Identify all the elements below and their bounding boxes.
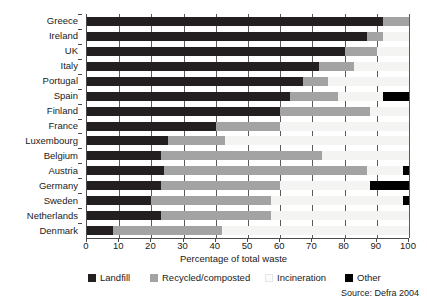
y-axis-tick	[78, 223, 82, 224]
bar-segment-landfill	[87, 151, 161, 160]
bar-row	[87, 226, 409, 235]
bar-segment-recycled	[164, 166, 367, 175]
y-axis-tick	[78, 44, 82, 45]
legend-item-other[interactable]: Other	[345, 272, 381, 283]
bar-segment-recycled	[216, 122, 280, 131]
bar-segment-recycled	[151, 196, 270, 205]
category-label-italy: Italy	[61, 61, 78, 71]
bar-row	[87, 166, 409, 175]
bar-segment-incineration	[338, 92, 383, 101]
bar-segment-incineration	[367, 166, 402, 175]
x-axis-tick-label: 10	[113, 240, 124, 251]
bar-segment-recycled	[367, 32, 383, 41]
legend-item-incineration[interactable]: Incineration	[265, 272, 326, 283]
bar-row	[87, 77, 409, 86]
bar-segment-landfill	[87, 47, 345, 56]
category-label-austria: Austria	[48, 166, 78, 176]
legend-swatch-other-icon	[345, 274, 353, 282]
bar-segment-incineration	[377, 47, 409, 56]
y-axis-tick	[78, 163, 82, 164]
bar-row	[87, 107, 409, 116]
bar-segment-landfill	[87, 122, 216, 131]
category-label-finland: Finland	[47, 106, 78, 116]
x-axis-tick-label: 60	[274, 240, 285, 251]
bar-row	[87, 211, 409, 220]
category-label-luxembourg: Luxembourg	[25, 136, 78, 146]
bar-row	[87, 136, 409, 145]
bar-segment-recycled	[303, 77, 329, 86]
y-axis-tick	[78, 74, 82, 75]
legend-label: Other	[357, 272, 381, 283]
y-axis-tick	[78, 59, 82, 60]
x-axis-tick-label: 30	[177, 240, 188, 251]
bar-segment-other	[403, 196, 409, 205]
bar-row	[87, 181, 409, 190]
bar-segment-incineration	[322, 151, 409, 160]
y-axis-tick	[78, 104, 82, 105]
bar-segment-incineration	[383, 32, 409, 41]
bar-segment-landfill	[87, 211, 161, 220]
bar-segment-incineration	[225, 136, 409, 145]
bar-segment-landfill	[87, 226, 113, 235]
y-axis-tick	[78, 133, 82, 134]
bar-row	[87, 47, 409, 56]
legend-label: Recycled/composted	[162, 272, 250, 283]
y-axis-tick	[78, 119, 82, 120]
category-label-sweden: Sweden	[44, 196, 78, 206]
category-label-spain: Spain	[54, 91, 78, 101]
legend-swatch-incineration-icon	[265, 274, 273, 282]
category-label-netherlands: Netherlands	[27, 211, 78, 221]
bar-segment-other	[383, 92, 409, 101]
bar-segment-other	[370, 181, 409, 190]
bar-segment-recycled	[345, 47, 377, 56]
bar-segment-recycled	[280, 107, 370, 116]
bar-row	[87, 17, 409, 26]
legend-item-landfill[interactable]: Landfill	[88, 272, 130, 283]
bar-segment-incineration	[370, 107, 409, 116]
bar-row	[87, 151, 409, 160]
y-axis-tick	[78, 148, 82, 149]
bar-segment-incineration	[271, 196, 403, 205]
bar-segment-landfill	[87, 166, 164, 175]
legend-label: Incineration	[277, 272, 326, 283]
bar-segment-recycled	[383, 17, 409, 26]
bar-segment-incineration	[328, 77, 409, 86]
legend-label: Landfill	[100, 272, 130, 283]
x-axis-tick-label: 100	[400, 240, 416, 251]
chart-legend: LandfillRecycled/compostedIncinerationOt…	[0, 272, 427, 286]
legend-swatch-recycled-icon	[150, 274, 158, 282]
bar-segment-landfill	[87, 32, 367, 41]
x-axis-tick-label: 50	[242, 240, 253, 251]
y-axis-tick	[78, 178, 82, 179]
y-axis-tick	[78, 14, 82, 15]
bar-segment-recycled	[161, 151, 322, 160]
gridline	[409, 14, 410, 238]
bar-row	[87, 32, 409, 41]
bar-row	[87, 62, 409, 71]
bar-segment-incineration	[222, 226, 409, 235]
x-axis-tick-label: 0	[83, 240, 88, 251]
bar-segment-incineration	[280, 181, 370, 190]
legend-item-recycled[interactable]: Recycled/composted	[150, 272, 250, 283]
x-axis-tick-label: 40	[210, 240, 221, 251]
bar-segment-other	[403, 166, 409, 175]
category-label-belgium: Belgium	[44, 151, 78, 161]
bar-segment-recycled	[161, 181, 280, 190]
bar-segment-recycled	[168, 136, 226, 145]
y-axis-tick	[78, 193, 82, 194]
y-axis-tick	[78, 89, 82, 90]
bar-segment-recycled	[319, 62, 354, 71]
category-label-denmark: Denmark	[39, 226, 78, 236]
category-label-portugal: Portugal	[43, 76, 78, 86]
category-label-germany: Germany	[39, 181, 78, 191]
x-axis-title: Percentage of total waste	[0, 253, 427, 264]
bar-row	[87, 122, 409, 131]
category-label-france: France	[48, 121, 78, 131]
y-axis-tick	[78, 208, 82, 209]
bar-segment-landfill	[87, 136, 168, 145]
bar-segment-landfill	[87, 92, 290, 101]
category-label-uk: UK	[65, 46, 78, 56]
bar-segment-landfill	[87, 77, 303, 86]
bar-segment-incineration	[271, 211, 409, 220]
bar-row	[87, 92, 409, 101]
